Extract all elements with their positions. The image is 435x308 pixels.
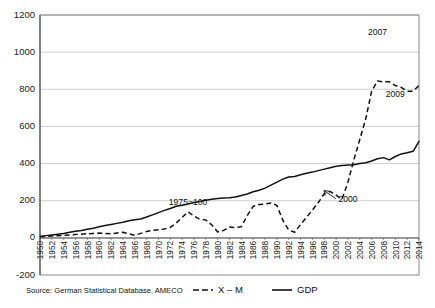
x-axis-tick-label: 1978 <box>202 241 211 260</box>
x-axis-tick-label: 1992 <box>285 241 294 260</box>
y-axis-tick-label: 800 <box>19 83 35 94</box>
x-axis-tick-label: 1980 <box>214 241 223 260</box>
x-axis-tick-label: 2012 <box>403 241 412 260</box>
y-axis-tick-label: -200 <box>16 269 35 280</box>
x-axis-tick-label: 1966 <box>131 241 140 260</box>
x-axis-tick-label: 1958 <box>84 241 93 260</box>
x-axis-tick-label: 1974 <box>178 241 187 260</box>
x-axis-tick-label: 1962 <box>107 241 116 260</box>
chart-annotation: 2009 <box>386 89 405 99</box>
x-axis-tick-label: 1982 <box>226 241 235 260</box>
x-axis-tick-label: 1998 <box>320 241 329 260</box>
y-axis-tick-label: 1000 <box>14 46 35 57</box>
x-axis-tick-label: 1984 <box>238 241 247 260</box>
x-axis-tick-label: 2004 <box>356 241 365 260</box>
x-axis-tick-label: 1952 <box>48 241 57 260</box>
y-axis-tick-label: 200 <box>19 194 35 205</box>
chart-annotation: 2007 <box>368 27 387 37</box>
x-axis-tick-label: 1994 <box>297 241 306 260</box>
series-line-x-minus-m <box>40 81 419 237</box>
x-axis-tick-label: 2010 <box>392 241 401 260</box>
chart-figure: -200020040060080010001200195019521954195… <box>0 0 435 308</box>
source-note: Source: German Statistical Database, AME… <box>26 286 183 295</box>
legend-label: GDP <box>297 284 318 295</box>
x-axis-tick-label: 2008 <box>380 241 389 260</box>
chart-canvas: -200020040060080010001200195019521954195… <box>0 0 435 308</box>
x-axis-tick-label: 2000 <box>332 241 341 260</box>
plot-frame <box>40 15 419 275</box>
x-axis-tick-label: 1970 <box>155 241 164 260</box>
y-axis-tick-label: 600 <box>19 120 35 131</box>
x-axis-tick-label: 2014 <box>415 241 424 260</box>
x-axis-tick-label: 1968 <box>143 241 152 260</box>
y-axis-tick-label: 1200 <box>14 9 35 20</box>
x-axis-tick-label: 1954 <box>60 241 69 260</box>
x-axis-tick-label: 1972 <box>166 241 175 260</box>
x-axis-tick-label: 1986 <box>249 241 258 260</box>
chart-annotation: 1975=100 <box>169 197 208 207</box>
series-line-gdp <box>40 141 419 236</box>
y-axis-tick-label: 400 <box>19 157 35 168</box>
x-axis-tick-label: 1950 <box>36 241 45 260</box>
x-axis-tick-label: 2002 <box>344 241 353 260</box>
x-axis-tick-label: 1976 <box>190 241 199 260</box>
x-axis-tick-label: 1988 <box>261 241 270 260</box>
legend-label: X – M <box>218 284 243 295</box>
x-axis-tick-label: 2006 <box>368 241 377 260</box>
x-axis-tick-label: 1996 <box>309 241 318 260</box>
x-axis-tick-label: 1956 <box>72 241 81 260</box>
y-axis-tick-label: 0 <box>30 231 35 242</box>
x-axis-tick-label: 1990 <box>273 241 282 260</box>
chart-annotation: 2000 <box>338 194 357 204</box>
x-axis-tick-label: 1960 <box>95 241 104 260</box>
x-axis-tick-label: 1964 <box>119 241 128 260</box>
